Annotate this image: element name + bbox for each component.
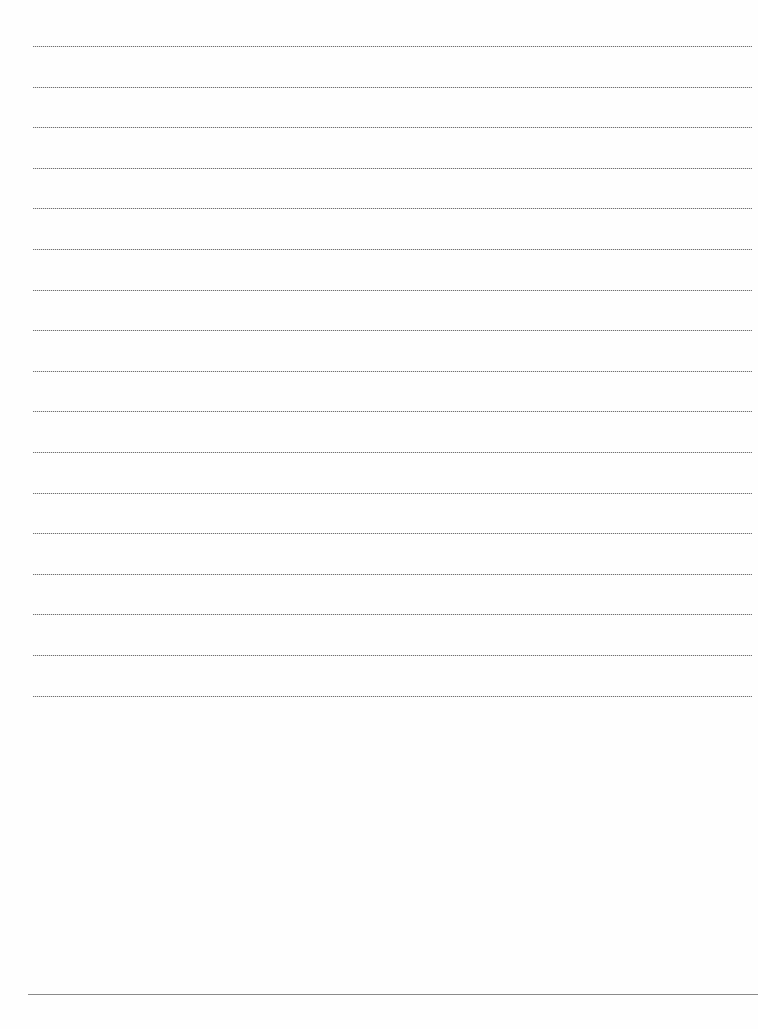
ruled-line xyxy=(33,87,752,88)
ruled-line xyxy=(33,290,752,291)
ruled-line xyxy=(33,330,752,331)
ruled-line xyxy=(33,46,752,47)
ruled-line xyxy=(33,614,752,615)
ruled-line xyxy=(33,208,752,209)
ruled-line xyxy=(33,696,752,697)
ruled-line xyxy=(33,168,752,169)
ruled-line xyxy=(33,249,752,250)
ruled-line xyxy=(33,452,752,453)
ruled-line xyxy=(33,574,752,575)
ruled-line xyxy=(33,533,752,534)
footer-rule xyxy=(28,994,758,995)
ruled-line xyxy=(33,411,752,412)
ruled-line xyxy=(33,371,752,372)
ruled-line xyxy=(33,127,752,128)
ruled-line xyxy=(33,493,752,494)
ruled-line xyxy=(33,655,752,656)
lined-paper-page xyxy=(0,0,758,1029)
